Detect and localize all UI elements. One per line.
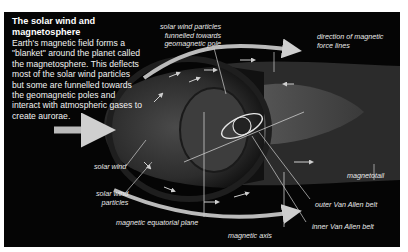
label-magnetotail: magnetotail [347, 172, 384, 181]
diagram-title: The solar wind and magnetosphere [12, 16, 142, 38]
label-inner-van-allen-belt: inner Van Allen belt [312, 223, 374, 232]
label-solar-wind-particles: solar wind particles [96, 190, 128, 207]
intro-body: Earth's magnetic field forms a "blanket"… [12, 38, 142, 121]
label-funnelled-particles: solar wind particles funnelled towards g… [160, 23, 221, 49]
label-magnetic-equatorial-plane: magnetic equatorial plane [116, 219, 198, 228]
intro-text-block: The solar wind and magnetosphere Earth's… [12, 16, 142, 121]
label-magnetic-axis: magnetic axis [228, 232, 272, 241]
label-outer-van-allen-belt: outer Van Allen belt [315, 201, 377, 210]
label-solar-wind: solar wind [94, 163, 126, 172]
label-force-lines: direction of magnetic force lines [317, 33, 383, 50]
diagram-panel: The solar wind and magnetosphere Earth's… [4, 12, 400, 247]
